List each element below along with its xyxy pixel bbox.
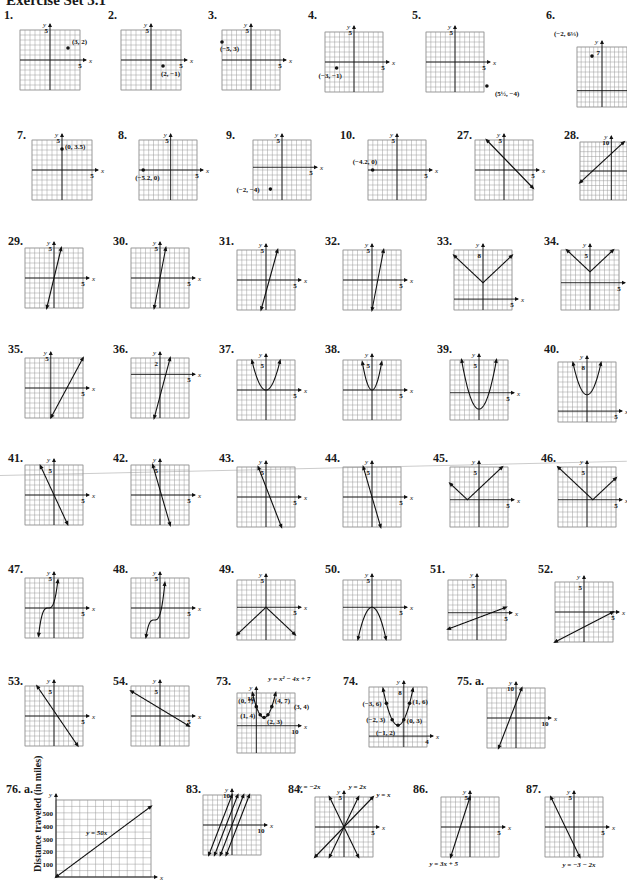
svg-text:y: y — [471, 351, 476, 359]
svg-text:5: 5 — [49, 245, 53, 253]
graph-27: xy55 — [475, 140, 533, 200]
graph-47: xy55 — [25, 578, 83, 638]
svg-text:5: 5 — [617, 285, 621, 293]
svg-text:y: y — [364, 351, 369, 359]
svg-text:x: x — [434, 167, 439, 175]
svg-text:5: 5 — [381, 64, 385, 72]
annotation: (4, 7) — [275, 697, 291, 705]
annotation: (−5.2, 0) — [135, 174, 160, 182]
svg-text:5: 5 — [155, 688, 159, 696]
svg-text:5: 5 — [399, 499, 403, 507]
svg-text:x: x — [88, 57, 93, 65]
svg-text:x: x — [205, 167, 210, 175]
y-axis-label-text: Distance traveled (in miles) — [32, 756, 43, 872]
page-title: Exercise Set 3.1 — [6, 0, 106, 9]
svg-text:x: x — [319, 164, 324, 172]
svg-text:y: y — [152, 677, 157, 685]
svg-text:5: 5 — [195, 172, 199, 180]
svg-text:y: y — [46, 456, 51, 464]
exercise-number: 76. a. — [6, 782, 33, 797]
exercise-number: 31. — [219, 234, 234, 249]
graph-4: xy55(−3, −1) — [325, 32, 383, 92]
svg-text:y: y — [152, 349, 157, 357]
graph-2: xy55(2, −1) — [121, 30, 181, 90]
svg-text:5: 5 — [367, 577, 371, 585]
annotation: (3, 2) — [72, 38, 88, 46]
svg-text:5: 5 — [367, 247, 371, 255]
exercise-number: 27. — [457, 128, 472, 143]
svg-text:5: 5 — [339, 794, 343, 802]
graph-84: xy55y = −2xy = 2xy = x — [315, 797, 373, 857]
svg-text:x: x — [269, 822, 274, 830]
exercise-number: 5. — [412, 8, 421, 23]
svg-text:y: y — [248, 684, 253, 692]
annotation: (−1, 2) — [376, 729, 396, 737]
svg-text:x: x — [553, 715, 558, 723]
svg-text:5: 5 — [506, 395, 510, 403]
graph-53: xy55 — [25, 686, 83, 746]
svg-text:5: 5 — [474, 469, 478, 477]
exercise-number: 6. — [546, 8, 555, 23]
graph-75a: xy1010 — [487, 688, 545, 748]
svg-text:x: x — [303, 387, 308, 395]
annotation: (−3, 6) — [362, 700, 382, 708]
annotation: y = x² − 4x + 7 — [267, 675, 310, 683]
svg-text:10: 10 — [542, 720, 550, 728]
graph-37: xy55 — [237, 360, 295, 420]
annotation: y = −2x — [298, 783, 321, 791]
annotation: y = −3 − 2x — [561, 861, 596, 869]
svg-text:5: 5 — [277, 137, 281, 145]
svg-text:y: y — [594, 38, 599, 46]
annotation: (2, −1) — [161, 70, 181, 78]
svg-text:5: 5 — [569, 794, 573, 802]
exercise-number: 51. — [430, 562, 445, 577]
svg-text:5: 5 — [90, 172, 94, 180]
svg-text:x: x — [409, 277, 414, 285]
graph-45: xy55 — [450, 467, 508, 527]
annotation: (−4.2, 0) — [353, 158, 378, 166]
svg-text:x: x — [516, 497, 521, 505]
svg-text:5: 5 — [499, 137, 503, 145]
graph-3: xy55(−5, 3) — [222, 30, 280, 90]
graph-30: xy55 — [131, 248, 189, 308]
svg-text:x: x — [159, 874, 164, 880]
svg-text:x: x — [303, 723, 308, 731]
svg-text:y: y — [475, 241, 480, 249]
exercise-number: 47. — [8, 562, 23, 577]
svg-text:5: 5 — [293, 392, 297, 400]
exercise-number: 49. — [219, 562, 234, 577]
exercise-number: 39. — [437, 342, 452, 357]
exercise-number: 86. — [413, 782, 428, 797]
exercise-number: 75. a. — [457, 674, 484, 689]
annotation: y = 3x + 5 — [428, 860, 458, 868]
graph-5: xy55(5½, −4) — [426, 32, 484, 92]
graph-8: xy55(−5.2, 0) — [139, 140, 197, 200]
graph-9: xy55(−2, −4) — [253, 140, 311, 200]
svg-text:5: 5 — [585, 252, 589, 260]
svg-text:5: 5 — [510, 301, 514, 309]
svg-text:5: 5 — [465, 794, 469, 802]
svg-text:y: y — [469, 571, 474, 579]
exercise-number: 41. — [8, 451, 23, 466]
svg-text:5: 5 — [293, 499, 297, 507]
annotation: (0, 3.5) — [65, 143, 86, 151]
svg-text:x: x — [91, 492, 96, 500]
svg-text:x: x — [492, 59, 497, 67]
graph-52: xy55 — [555, 582, 613, 642]
svg-text:5: 5 — [367, 362, 371, 370]
svg-text:x: x — [100, 167, 105, 175]
annotation: (1, 6) — [413, 698, 429, 706]
svg-text:x: x — [197, 371, 202, 379]
exercise-number: 44. — [325, 451, 340, 466]
svg-text:10: 10 — [223, 792, 231, 800]
svg-text:y: y — [258, 458, 263, 466]
annotation: (0, 7) — [238, 697, 254, 705]
graph-83: xy1010 — [203, 795, 261, 855]
svg-text:5: 5 — [187, 280, 191, 288]
graph-42: xy55 — [131, 465, 189, 525]
exercise-number: 35. — [8, 342, 23, 357]
graph-51: xy55 — [448, 580, 506, 640]
svg-text:y: y — [48, 791, 53, 799]
svg-text:x: x — [303, 494, 308, 502]
exercise-number: 38. — [325, 342, 340, 357]
